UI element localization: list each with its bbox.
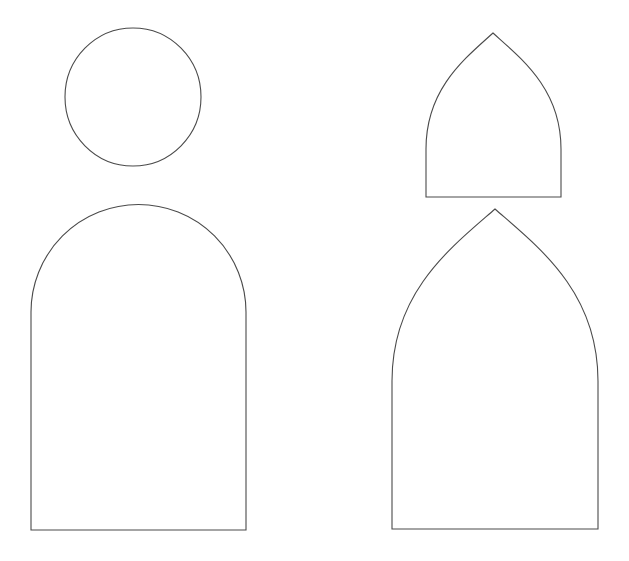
circle-shape [65, 28, 201, 166]
round-arch-shape [31, 205, 246, 531]
figure-canvas: Arch Geometry Line Drawing Circle Semici… [0, 0, 629, 561]
line-drawing-svg [0, 0, 629, 561]
